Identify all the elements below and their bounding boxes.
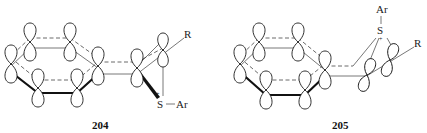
p-orbital-c1 — [253, 23, 265, 61]
structure-205: Ar S + R 205 — [234, 3, 422, 131]
charge-label: + — [379, 36, 383, 42]
ring-frame-back — [11, 38, 98, 80]
p-orbital-c1 — [24, 23, 36, 61]
p-orbital-c3 — [319, 51, 331, 89]
p-orbital-vinyl-alpha — [357, 57, 378, 93]
p-orbital-c2 — [64, 23, 76, 61]
p-orbital-vinyl-beta — [158, 33, 169, 67]
p-orbital-vinyl-beta — [380, 42, 401, 78]
p-orbital-c2 — [292, 23, 304, 61]
aryl-label: Ar — [376, 3, 388, 15]
structure-204: R + S Ar 204 — [5, 23, 192, 131]
sulfur-label: S — [377, 24, 383, 36]
p-orbital-c6 — [5, 45, 17, 83]
compound-label-204: 204 — [92, 119, 109, 131]
sulfur-label: S — [157, 98, 163, 110]
compound-label-205: 205 — [332, 119, 349, 131]
p-orbital-vinyl-alpha — [131, 49, 143, 87]
charge-label: + — [156, 91, 160, 97]
orbital-diagram: R + S Ar 204 — [0, 0, 427, 133]
ring-frame-back — [240, 38, 325, 80]
r-label: R — [414, 37, 422, 49]
p-orbital-c6 — [234, 45, 246, 83]
r-label: R — [184, 28, 192, 40]
p-orbital-c5 — [32, 69, 44, 107]
aryl-label: Ar — [176, 98, 188, 110]
ring-front-bold-edge — [240, 72, 325, 95]
ring-front-bold-edge — [11, 72, 98, 93]
